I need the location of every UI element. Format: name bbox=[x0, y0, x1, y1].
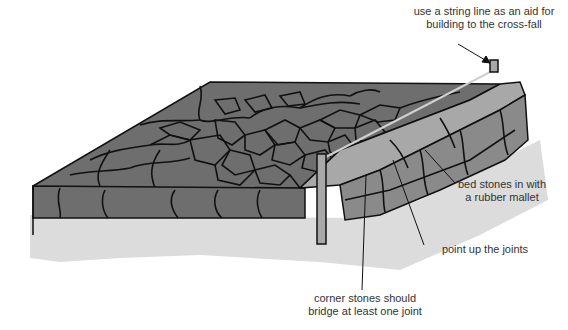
label-point-joints-1: point up the joints bbox=[425, 243, 545, 256]
label-bed-stones-1: bed stones in with bbox=[452, 178, 552, 191]
label-string-line: use a string line as an aid for building… bbox=[400, 5, 568, 31]
paving-diagram bbox=[0, 0, 568, 330]
label-corner-stones: corner stones should bridge at least one… bbox=[285, 292, 445, 318]
label-corner-stones-1: corner stones should bbox=[285, 292, 445, 305]
label-string-line-2: building to the cross-fall bbox=[400, 18, 568, 31]
far-stake bbox=[490, 60, 498, 72]
label-corner-stones-2: bridge at least one joint bbox=[285, 305, 445, 318]
label-bed-stones-2: a rubber mallet bbox=[452, 191, 552, 204]
label-point-joints: point up the joints bbox=[425, 243, 545, 256]
front-stake bbox=[317, 154, 326, 244]
label-string-line-1: use a string line as an aid for bbox=[400, 5, 568, 18]
label-bed-stones: bed stones in with a rubber mallet bbox=[452, 178, 552, 204]
slab-front-face bbox=[33, 186, 305, 218]
